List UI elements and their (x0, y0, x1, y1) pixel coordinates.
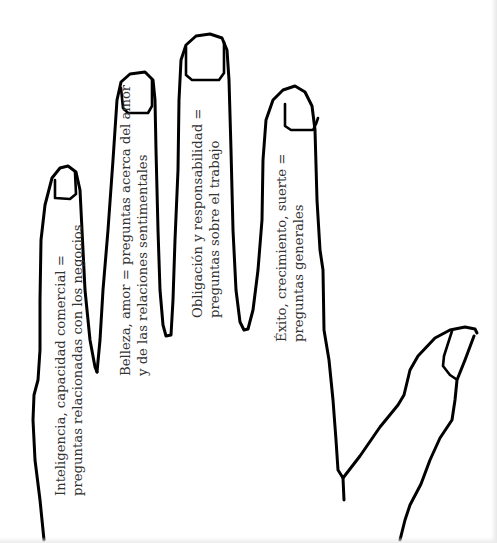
middle-nail (186, 42, 224, 80)
thumb-nail (443, 331, 456, 379)
pinky-label: Inteligencia, capacidad comercial = preg… (52, 224, 86, 496)
thumb-outline (343, 327, 477, 478)
index-label-line1: Éxito, crecimiento, suerte = (273, 154, 290, 342)
page-edge-shadow (491, 0, 497, 543)
ring-label-line2: y de las relaciones sentimentales (134, 85, 151, 376)
ring-label-line1: Belleza, amor = preguntas acerca del amo… (117, 85, 134, 376)
middle-label-line1: Obligación y responsabilidad = (189, 109, 206, 318)
page-bottom-shadow (0, 537, 497, 543)
hand-diagram: Inteligencia, capacidad comercial = preg… (0, 0, 497, 543)
middle-label: Obligación y responsabilidad = preguntas… (189, 109, 223, 318)
index-label-line2: preguntas generales (290, 154, 307, 342)
pinky-label-line1: Inteligencia, capacidad comercial = (52, 224, 69, 496)
ring-label: Belleza, amor = preguntas acerca del amo… (117, 85, 151, 376)
middle-label-line2: preguntas sobre el trabajo (206, 109, 223, 318)
pinky-nail (55, 172, 76, 199)
pinky-label-line2: preguntas relacionadas con los negocios (69, 224, 86, 496)
index-label: Éxito, crecimiento, suerte = preguntas g… (273, 154, 307, 342)
